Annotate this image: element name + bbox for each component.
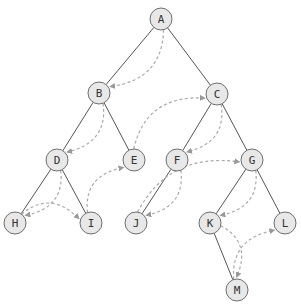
edge-G-L	[257, 170, 280, 214]
node-label: A	[158, 13, 165, 26]
node-G: G	[241, 149, 263, 171]
edge-B-E	[104, 103, 129, 151]
traversal-arrow-C-F	[187, 104, 222, 152]
node-label: I	[88, 217, 95, 230]
node-label: K	[207, 217, 214, 230]
edge-A-C	[168, 28, 211, 85]
tree-diagram: ABCDEFGHIJKLM	[0, 0, 301, 308]
node-label: F	[174, 154, 181, 167]
edge-A-B	[106, 27, 154, 84]
traversal-arrow-G-K	[220, 170, 256, 215]
edge-C-G	[222, 104, 247, 151]
node-A: A	[150, 8, 172, 30]
traversal-arrow-M-L	[233, 230, 274, 279]
traversal-arrow-F-J	[146, 170, 181, 215]
traversal-arrow-A-B	[110, 30, 163, 87]
edge-D-H	[21, 169, 51, 214]
edge-K-M	[214, 233, 233, 280]
node-label: G	[249, 154, 256, 167]
node-label: C	[214, 88, 221, 101]
traversal-arrow-E-C	[134, 98, 205, 149]
node-I: I	[80, 212, 102, 234]
node-label: L	[282, 217, 289, 230]
traversal-arrow-D-H	[25, 170, 61, 215]
node-label: D	[54, 154, 61, 167]
edge-G-K	[216, 169, 246, 214]
node-B: B	[88, 82, 110, 104]
node-label: B	[96, 87, 103, 100]
node-H: H	[4, 212, 26, 234]
node-F: F	[166, 149, 188, 171]
tree-svg: ABCDEFGHIJKLM	[0, 0, 301, 308]
node-J: J	[125, 212, 147, 234]
edge-D-I	[62, 170, 86, 214]
node-L: L	[274, 212, 296, 234]
node-E: E	[123, 149, 145, 171]
node-K: K	[199, 212, 221, 234]
node-label: E	[131, 154, 138, 167]
node-M: M	[226, 279, 248, 301]
node-label: M	[234, 284, 241, 297]
traversal-arrow-H-I	[22, 203, 79, 219]
traversal-arrow-J-G	[138, 160, 240, 212]
traversal-arrow-B-D	[67, 103, 103, 152]
node-label: J	[133, 217, 140, 230]
node-C: C	[206, 83, 228, 105]
traversal-arrow-I-E	[87, 168, 123, 213]
node-D: D	[46, 149, 68, 171]
edge-F-J	[142, 169, 171, 214]
tree-nodes: ABCDEFGHIJKLM	[4, 8, 296, 301]
node-label: H	[12, 217, 19, 230]
